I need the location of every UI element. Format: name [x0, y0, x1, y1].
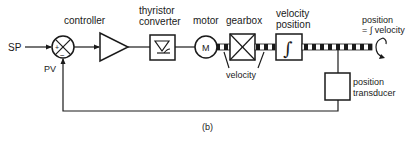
velocity-pointer-right [258, 52, 264, 68]
gearbox-shaft [255, 44, 275, 50]
motor-label: motor [193, 15, 219, 26]
output-integral-label: = ∫ velocity [362, 25, 405, 35]
figure-caption: (b) [202, 122, 213, 132]
process-variable-label: PV [44, 64, 56, 74]
summing-junction: + − [52, 36, 74, 60]
thyristor-converter-block [150, 35, 175, 60]
output-shaft [302, 44, 372, 50]
velocity-annotation: velocity [226, 70, 257, 80]
integrator-output-label: position [276, 19, 310, 30]
plus-sign: + [55, 44, 59, 51]
transducer-label-line2: transducer [353, 88, 396, 98]
position-transducer-block [325, 73, 350, 100]
rotation-arrow-icon [376, 38, 386, 59]
integrator-input-label: velocity [276, 8, 309, 19]
motor-shaft [217, 44, 230, 50]
output-position-label: position [362, 15, 393, 25]
control-loop-diagram: SP + − PV controller thyristor converter… [0, 0, 420, 143]
feedback-path [63, 59, 338, 111]
setpoint-label: SP [8, 42, 22, 53]
converter-label: converter [139, 16, 181, 27]
controller-amplifier-icon [100, 33, 128, 61]
gearbox-block [230, 34, 255, 60]
integral-icon: ∫ [283, 38, 293, 59]
motor-symbol: M [202, 43, 210, 53]
gearbox-label: gearbox [226, 15, 262, 26]
minus-sign: − [60, 51, 65, 60]
thyristor-label: thyristor [139, 5, 175, 16]
controller-label: controller [64, 15, 106, 26]
velocity-pointer-left [224, 52, 229, 68]
transducer-label-line1: position [353, 77, 384, 87]
